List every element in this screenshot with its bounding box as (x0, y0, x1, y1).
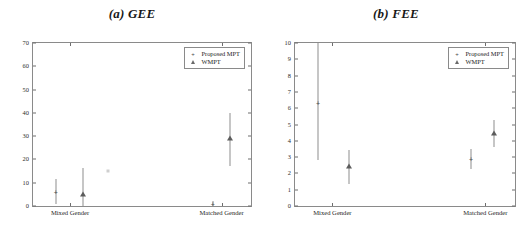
panel-gee: (a) GEE Gross Error (%) 010203040506070M… (0, 0, 264, 238)
y-axis-tick (512, 140, 515, 141)
x-axis-tick (485, 43, 486, 46)
legend-label: Proposed MPT (465, 51, 504, 57)
panel-b-legend: + Proposed MPT WMPT (448, 47, 509, 69)
y-axis-tick-label: 10 (285, 40, 291, 46)
x-axis-tick (332, 43, 333, 46)
stray-marker (107, 170, 110, 173)
y-axis-tick (248, 136, 251, 137)
y-axis-tick (33, 66, 36, 67)
triangle-marker (227, 136, 233, 141)
y-axis-tick (33, 206, 36, 207)
y-axis-tick (33, 159, 36, 160)
y-axis-tick (295, 173, 298, 174)
y-axis-tick-label: 70 (23, 40, 29, 46)
y-axis-tick (248, 159, 251, 160)
legend-entry-wmpt: WMPT (188, 58, 240, 66)
legend-entry-proposed-mpt: + Proposed MPT (452, 50, 504, 58)
y-axis-tick (512, 108, 515, 109)
y-axis-tick (33, 136, 36, 137)
x-axis-tick (70, 43, 71, 46)
y-axis-tick-label: 0 (26, 203, 29, 209)
y-axis-tick-label: 30 (23, 133, 29, 139)
x-axis-category-label: Matched Gender (200, 210, 244, 217)
cross-marker-icon: + (452, 50, 461, 58)
y-axis-tick-label: 20 (23, 156, 29, 162)
y-axis-tick-label: 0 (288, 203, 291, 209)
y-axis-tick (248, 112, 251, 113)
cross-marker: + (469, 155, 473, 162)
legend-label: WMPT (201, 59, 220, 65)
y-axis-tick-label: 3 (288, 154, 291, 160)
triangle-marker (80, 192, 86, 197)
y-axis-tick-label: 2 (288, 170, 291, 176)
x-axis-tick (332, 203, 333, 206)
y-axis-tick (33, 112, 36, 113)
y-axis-tick (295, 140, 298, 141)
y-axis-tick (295, 59, 298, 60)
y-axis-tick-label: 5 (288, 121, 291, 127)
triangle-marker (491, 130, 497, 135)
cross-marker: + (316, 100, 320, 107)
x-axis-tick (485, 203, 486, 206)
y-axis-tick (512, 91, 515, 92)
legend-entry-proposed-mpt: + Proposed MPT (188, 50, 240, 58)
y-axis-tick (512, 173, 515, 174)
error-bar (83, 168, 84, 206)
legend-label: Proposed MPT (201, 51, 240, 57)
y-axis-tick (295, 91, 298, 92)
x-axis-category-label: Matched Gender (463, 210, 507, 217)
y-axis-tick (33, 43, 36, 44)
y-axis-tick-label: 8 (288, 72, 291, 78)
triangle-marker-icon (188, 58, 197, 66)
y-axis-tick (295, 157, 298, 158)
panel-fee: (b) FEE Fine Error (%) 012345678910Mixed… (264, 0, 528, 238)
y-axis-tick-label: 4 (288, 138, 291, 144)
y-axis-tick-label: 40 (23, 110, 29, 116)
cross-marker: + (54, 189, 58, 196)
panel-b-title: (b) FEE (264, 6, 528, 22)
triangle-marker-icon (452, 58, 461, 66)
cross-marker-icon: + (188, 50, 197, 58)
panel-a-title: (a) GEE (0, 6, 264, 22)
y-axis-tick (33, 182, 36, 183)
y-axis-tick (295, 124, 298, 125)
y-axis-tick (248, 89, 251, 90)
y-axis-tick-label: 9 (288, 56, 291, 62)
x-axis-tick (222, 203, 223, 206)
y-axis-tick (295, 108, 298, 109)
y-axis-tick (33, 89, 36, 90)
y-axis-tick-label: 10 (23, 180, 29, 186)
x-axis-tick (70, 203, 71, 206)
cross-marker: + (211, 200, 215, 207)
y-axis-tick (248, 66, 251, 67)
x-axis-category-label: Mixed Gender (313, 210, 351, 217)
y-axis-tick (512, 59, 515, 60)
y-axis-tick-label: 1 (288, 186, 291, 192)
y-axis-tick (248, 206, 251, 207)
y-axis-tick (512, 206, 515, 207)
y-axis-tick-label: 50 (23, 86, 29, 92)
x-axis-category-label: Mixed Gender (51, 210, 89, 217)
y-axis-tick (295, 43, 298, 44)
y-axis-tick (512, 124, 515, 125)
y-axis-tick (512, 75, 515, 76)
panel-b-plot-area: 012345678910Mixed GenderMatched Gender++… (294, 42, 516, 207)
y-axis-tick (512, 157, 515, 158)
y-axis-tick (295, 75, 298, 76)
y-axis-tick (248, 182, 251, 183)
y-axis-tick (295, 206, 298, 207)
y-axis-tick-label: 60 (23, 63, 29, 69)
y-axis-tick-label: 7 (288, 89, 291, 95)
legend-label: WMPT (465, 59, 484, 65)
panel-a-legend: + Proposed MPT WMPT (184, 47, 245, 69)
y-axis-tick (512, 189, 515, 190)
y-axis-tick (248, 43, 251, 44)
y-axis-tick-label: 6 (288, 105, 291, 111)
figure-panels: (a) GEE Gross Error (%) 010203040506070M… (0, 0, 528, 238)
legend-entry-wmpt: WMPT (452, 58, 504, 66)
x-axis-tick (222, 43, 223, 46)
y-axis-tick (512, 43, 515, 44)
y-axis-tick (295, 189, 298, 190)
panel-a-plot-area: 010203040506070Mixed GenderMatched Gende… (32, 42, 252, 207)
triangle-marker (346, 164, 352, 169)
